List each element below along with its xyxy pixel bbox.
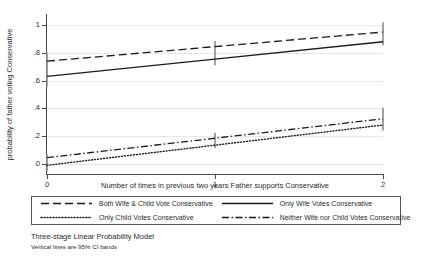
y-axis-title: probability of father voting Conservativ… — [4, 14, 15, 175]
series-line — [47, 125, 383, 165]
chart-root: probability of father voting Conservativ… — [0, 0, 432, 260]
legend-grid: Both Wife & Child Vote ConservativeOnly … — [32, 197, 400, 224]
legend-box: Both Wife & Child Vote ConservativeOnly … — [31, 196, 401, 225]
legend-line-sample — [221, 213, 274, 222]
caption-main: Three-stage Linear Probability Model — [31, 231, 421, 242]
x-axis-title: Number of times in previous two years Fa… — [47, 181, 383, 191]
y-tick-label: .6 — [34, 77, 40, 85]
y-tick-label: .4 — [34, 105, 40, 113]
caption-note: Vertical lines are 95% CI bands — [31, 242, 421, 252]
plot-area: 0.2.4.6.81 012 — [47, 14, 383, 175]
legend-entry: Only Child Votes Conservative — [32, 213, 213, 222]
x-tick — [383, 174, 384, 179]
legend-entry: Neither Wife nor Child Votes Conservativ… — [213, 213, 411, 222]
legend-label: Only Wife Votes Conservative — [280, 199, 373, 208]
y-tick-label: .2 — [34, 132, 40, 140]
legend-label: Only Child Votes Conservative — [99, 213, 194, 222]
y-tick-label: 1 — [36, 21, 40, 29]
legend-label: Neither Wife nor Child Votes Conservativ… — [280, 213, 411, 222]
series-layer — [47, 14, 383, 175]
legend-label: Both Wife & Child Vote Conservative — [99, 199, 213, 208]
legend-line-sample — [221, 199, 274, 208]
legend-entry: Both Wife & Child Vote Conservative — [32, 199, 213, 208]
y-tick-label: 0 — [36, 160, 40, 168]
y-tick-label: .8 — [34, 49, 40, 57]
legend-line-sample — [40, 199, 93, 208]
ci-bands-layer — [47, 22, 383, 171]
legend-entry: Only Wife Votes Conservative — [213, 199, 411, 208]
caption-block: Three-stage Linear Probability Model Ver… — [31, 231, 421, 252]
legend-line-sample — [40, 213, 93, 222]
